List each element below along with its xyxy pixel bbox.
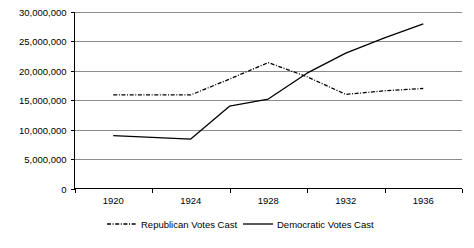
line-chart: 05,000,00010,000,00015,000,00020,000,000… xyxy=(0,0,474,248)
x-tick-label: 1932 xyxy=(335,195,356,206)
y-tick-label: 25,000,000 xyxy=(19,36,67,47)
y-tickmarks-group xyxy=(71,13,75,190)
legend-label: Democratic Votes Cast xyxy=(277,219,374,230)
y-tick-label: 0 xyxy=(61,184,66,195)
y-tick-label: 30,000,000 xyxy=(19,7,67,18)
x-tick-label: 1936 xyxy=(413,195,434,206)
x-tick-label: 1924 xyxy=(180,195,201,206)
chart-legend: Republican Votes CastDemocratic Votes Ca… xyxy=(107,219,374,230)
gridlines-group xyxy=(75,13,463,160)
y-tick-label: 10,000,000 xyxy=(19,125,67,136)
x-tick-label: 1920 xyxy=(103,195,124,206)
x-tickmarks-group xyxy=(76,189,463,193)
legend-label: Republican Votes Cast xyxy=(141,219,237,230)
x-tick-labels-group: 19201924192819321936 xyxy=(103,195,434,206)
y-tick-label: 20,000,000 xyxy=(19,66,67,77)
chart-canvas: 05,000,00010,000,00015,000,00020,000,000… xyxy=(0,0,474,248)
series-line-republican xyxy=(113,63,423,95)
y-tick-label: 5,000,000 xyxy=(24,154,66,165)
y-tick-label: 15,000,000 xyxy=(19,95,67,106)
x-tick-label: 1928 xyxy=(258,195,279,206)
y-tick-labels-group: 05,000,00010,000,00015,000,00020,000,000… xyxy=(19,7,67,195)
